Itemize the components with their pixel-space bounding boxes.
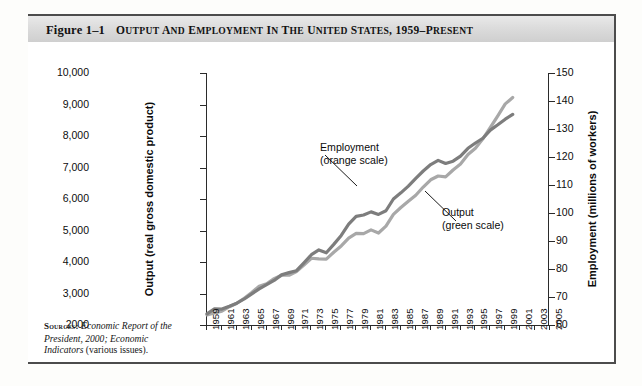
x-axis-tick-mark xyxy=(370,325,371,330)
x-axis-tick-mark xyxy=(325,325,326,330)
x-axis-tick-label: 1971 xyxy=(299,308,310,330)
sources-line3: Indicators xyxy=(44,344,83,355)
x-axis-tick-label: 2001 xyxy=(523,308,534,330)
x-axis-tick-label: 1999 xyxy=(508,308,519,330)
x-axis-tick-mark xyxy=(251,325,252,330)
x-axis-tick-label: 1969 xyxy=(285,308,296,330)
x-axis-tick-label: 1987 xyxy=(419,308,430,330)
x-axis-tick-mark xyxy=(445,325,446,330)
x-axis-tick-mark xyxy=(221,325,222,330)
sources-note: Sources: Economic Report of the Presiden… xyxy=(44,320,176,356)
figure-page: Figure 1–1OUTPUT AND EMPLOYMENT IN THE U… xyxy=(0,0,642,386)
x-axis-tick-mark xyxy=(549,325,550,330)
x-axis-tick-label: 1981 xyxy=(374,308,385,330)
annotation-employment-line1: Employment xyxy=(320,141,388,154)
x-axis-tick-label: 1961 xyxy=(225,308,236,330)
y-axis-left-tick-label: 10,000 xyxy=(29,66,89,78)
x-axis-tick-mark xyxy=(460,325,461,330)
x-axis-tick-mark xyxy=(340,325,341,330)
y-axis-right-tick-mark xyxy=(549,213,555,214)
x-axis-tick-label: 1965 xyxy=(255,308,266,330)
x-axis-tick-mark xyxy=(266,325,267,330)
x-axis-tick-label: 1997 xyxy=(493,308,504,330)
x-axis-tick-label: 1967 xyxy=(270,308,281,330)
x-axis-tick-mark xyxy=(310,325,311,330)
x-axis-tick-label: 1979 xyxy=(359,308,370,330)
x-axis-tick-label: 1973 xyxy=(314,308,325,330)
x-axis-tick-mark xyxy=(519,325,520,330)
sources-line3-roman: (various issues). xyxy=(83,344,148,355)
y-axis-left-tick-label: 9,000 xyxy=(29,98,89,110)
y-axis-right-tick-mark xyxy=(549,269,555,270)
y-axis-right-tick-mark xyxy=(549,185,555,186)
x-axis-tick-mark xyxy=(489,325,490,330)
x-axis-tick-mark xyxy=(206,325,207,330)
y-axis-left-tick-label: 4,000 xyxy=(29,255,89,267)
x-axis-tick-mark xyxy=(295,325,296,330)
x-axis-tick-label: 1985 xyxy=(404,308,415,330)
x-axis-tick-mark xyxy=(504,325,505,330)
x-axis-tick-mark xyxy=(400,325,401,330)
annotation-employment: Employment (orange scale) xyxy=(320,141,388,166)
series-svg xyxy=(207,73,550,325)
y-axis-right-tick-mark xyxy=(549,101,555,102)
annotation-output-line1: Output xyxy=(442,206,504,219)
y-axis-left-tick-label: 3,000 xyxy=(29,287,89,299)
y-axis-left-title: Output (real gross domestic product) xyxy=(143,73,155,325)
y-axis-left-tick-label: 8,000 xyxy=(29,129,89,141)
x-axis-tick-mark xyxy=(474,325,475,330)
annotation-employment-line2: (orange scale) xyxy=(320,154,388,167)
x-axis-tick-label: 1977 xyxy=(344,308,355,330)
x-axis-tick-label: 1983 xyxy=(389,308,400,330)
figure-title-text: OUTPUT AND EMPLOYMENT IN THE UNITED STAT… xyxy=(116,24,473,36)
x-axis-tick-label: 1963 xyxy=(240,308,251,330)
annotation-output: Output (green scale) xyxy=(442,206,504,231)
x-axis-tick-label: 1975 xyxy=(329,308,340,330)
plot-area xyxy=(206,73,549,325)
x-axis-tick-mark xyxy=(430,325,431,330)
x-axis-tick-label: 2003 xyxy=(538,308,549,330)
x-axis-tick-mark xyxy=(415,325,416,330)
y-axis-right-tick-mark xyxy=(549,241,555,242)
x-axis-tick-mark xyxy=(281,325,282,330)
x-axis-tick-mark xyxy=(534,325,535,330)
y-axis-right-tick-mark xyxy=(549,73,555,74)
y-axis-left-tick-label: 6,000 xyxy=(29,192,89,204)
x-axis-tick-mark xyxy=(236,325,237,330)
sources-label: Sources: xyxy=(44,321,79,331)
y-axis-right-tick-mark xyxy=(549,297,555,298)
x-axis-tick-label: 1991 xyxy=(449,308,460,330)
x-axis-tick-mark xyxy=(355,325,356,330)
annotation-output-line2: (green scale) xyxy=(442,219,504,232)
sources-line1: Economic Report of xyxy=(81,320,158,331)
x-axis-tick-label: 1959 xyxy=(210,308,221,330)
x-axis-tick-label: 1989 xyxy=(434,308,445,330)
y-axis-right-tick-mark xyxy=(549,129,555,130)
y-axis-right-title: Employment (millions of workers) xyxy=(586,73,598,325)
x-axis-tick-mark xyxy=(385,325,386,330)
y-axis-left-tick-label: 7,000 xyxy=(29,161,89,173)
x-axis-tick-label: 1993 xyxy=(464,308,475,330)
figure-number: Figure 1–1 xyxy=(46,23,105,37)
figure-title: Figure 1–1OUTPUT AND EMPLOYMENT IN THE U… xyxy=(46,20,473,38)
y-axis-right-tick-mark xyxy=(549,157,555,158)
x-axis-tick-label: 1995 xyxy=(478,308,489,330)
y-axis-left-tick-label: 5,000 xyxy=(29,224,89,236)
x-axis-tick-label: 2005 xyxy=(553,308,564,330)
